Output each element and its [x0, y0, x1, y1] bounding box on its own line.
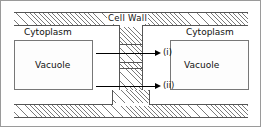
label-cytoplasm-right: Cytoplasm	[186, 28, 234, 37]
cell-wall-diagram: Cell Wall Cytoplasm Cytoplasm Vacuole Va…	[0, 0, 262, 128]
plasmodesma-channel-lower	[119, 68, 143, 87]
transport-arrow-i-line	[96, 53, 157, 54]
label-cell-wall: Cell Wall	[107, 13, 148, 24]
label-vacuole-left: Vacuole	[35, 61, 70, 70]
cell-wall-bottom-band	[14, 104, 248, 118]
label-pathway-i: (i)	[163, 48, 172, 57]
wall-join-mask-bottom	[113, 103, 149, 106]
transport-arrow-i-head	[155, 50, 161, 56]
label-pathway-ii: (ii)	[163, 81, 174, 90]
transport-arrow-ii-head	[155, 83, 161, 89]
transport-arrow-ii-line	[96, 86, 157, 87]
wall-join-mask-top	[120, 24, 142, 27]
label-cytoplasm-left: Cytoplasm	[24, 28, 72, 37]
label-vacuole-right: Vacuole	[184, 61, 219, 70]
